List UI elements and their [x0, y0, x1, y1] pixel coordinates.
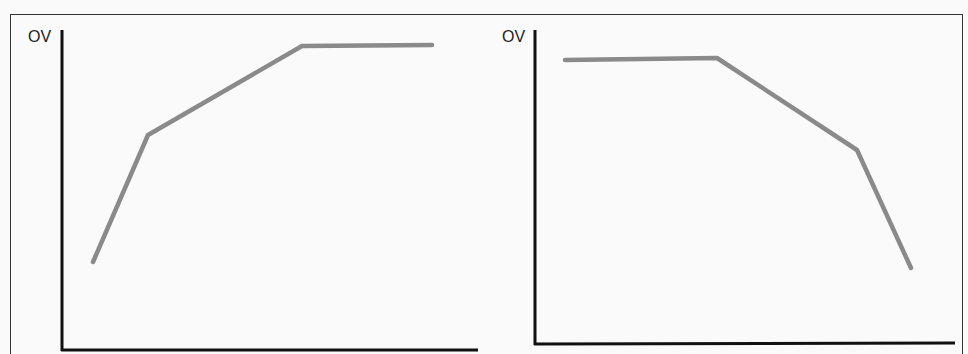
- left-chart-line: [93, 45, 432, 262]
- right-x-axis: [534, 343, 955, 344]
- left-y-axis-label: OV: [28, 28, 51, 46]
- right-chart-line: [565, 58, 911, 268]
- right-y-axis-label: OV: [502, 28, 525, 46]
